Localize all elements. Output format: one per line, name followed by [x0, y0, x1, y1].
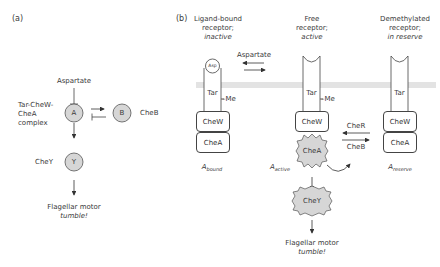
- tar-label-3: Tar: [394, 89, 404, 98]
- col3-title-line2: receptor;: [389, 24, 421, 33]
- cheb-label-b: CheB: [347, 143, 365, 152]
- a-bound-label: Abound: [202, 163, 223, 174]
- col2-title-line1: Free: [305, 15, 320, 24]
- cher-label: CheR: [347, 122, 366, 131]
- tumble-label-b: tumble!: [298, 248, 326, 257]
- chea-active-label: CheA: [303, 147, 321, 156]
- tar-label-2: Tar: [306, 89, 316, 98]
- tumble-label-a: tumble!: [60, 212, 88, 221]
- panel-b-label: (b): [176, 15, 187, 24]
- asp-ligand: Asp: [208, 62, 216, 71]
- node-b: B: [120, 109, 125, 118]
- a-active-label: Aactive: [270, 163, 290, 174]
- panel-a-label: (a): [12, 15, 23, 24]
- a-reserve-label: Areserve: [388, 163, 412, 174]
- col1-title-line1: Ligand-bound: [194, 15, 242, 24]
- complex-label-line3: complex: [18, 119, 48, 128]
- col3-title-line1: Demethylated: [380, 15, 430, 24]
- complex-label-line2: CheA: [18, 110, 36, 119]
- col1-title-line3: inactive: [204, 33, 232, 42]
- node-y: Y: [72, 158, 76, 167]
- col3-title-line3: in reserve: [387, 33, 422, 42]
- chew-box-2: CheW: [295, 111, 329, 132]
- chey-label-b: CheY: [303, 197, 321, 206]
- aspartate-label-b: Aspartate: [237, 51, 271, 60]
- chea-box-3: CheA: [383, 132, 417, 153]
- chew-box-3: CheW: [383, 111, 417, 132]
- tar-label-1: Tar: [207, 89, 217, 98]
- chew-box-1: CheW: [196, 111, 230, 132]
- motor-label-a: Flagellar motor: [47, 203, 100, 212]
- node-a: A: [72, 109, 77, 118]
- col2-title-line2: receptor;: [296, 24, 328, 33]
- motor-label-b: Flagellar motor: [285, 239, 338, 248]
- cheb-label-a: CheB: [140, 109, 158, 118]
- col2-title-line3: active: [301, 33, 322, 42]
- methyl-label-2: –Me: [321, 95, 335, 104]
- chey-label-a: CheY: [35, 158, 53, 167]
- methyl-label-1: –Me: [222, 95, 236, 104]
- complex-label-line1: Tar-CheW-: [18, 101, 53, 110]
- chea-box-1: CheA: [196, 132, 230, 153]
- col1-title-line2: receptor;: [202, 24, 234, 33]
- aspartate-label-a: Aspartate: [57, 77, 91, 86]
